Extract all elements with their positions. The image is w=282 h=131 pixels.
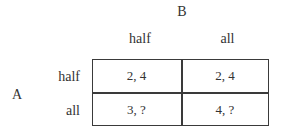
column-header-all: all [185, 32, 270, 46]
row-player-label: A [12, 88, 22, 102]
column-player-label: B [174, 5, 190, 19]
matrix-horizontal-divider [92, 92, 269, 94]
cell-half-half: 2, 4 [92, 69, 181, 83]
cell-half-all: 2, 4 [181, 69, 269, 83]
cell-all-half: 3, ? [92, 103, 181, 117]
row-header-half: half [50, 70, 80, 84]
column-header-half: half [100, 32, 180, 46]
row-header-all: all [50, 104, 80, 118]
cell-all-all: 4, ? [181, 103, 269, 117]
